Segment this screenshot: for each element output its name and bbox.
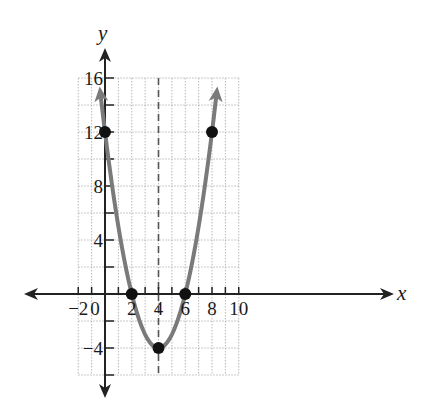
data-point (206, 126, 218, 138)
x-tick-label: 4 (154, 298, 164, 319)
x-tick-label: 8 (207, 298, 217, 319)
y-tick-label: 4 (94, 230, 104, 251)
y-tick-label: 16 (84, 68, 103, 89)
y-tick-label: −4 (83, 338, 104, 359)
y-tick-label: 8 (94, 176, 104, 197)
y-axis-label: y (96, 21, 108, 45)
x-tick-label: 2 (127, 298, 137, 319)
x-axis-label: x (396, 281, 407, 305)
x-tick-labels: −2 0 2 4 6 8 10 (68, 298, 248, 319)
x-tick-label: 6 (181, 298, 191, 319)
parabola-chart: −2 0 2 4 6 8 10 −4 4 8 12 16 x y (0, 0, 433, 403)
y-tick-label: 12 (84, 122, 103, 143)
x-tick-label: −2 (68, 298, 88, 319)
x-tick-label: 0 (90, 298, 100, 319)
x-tick-label: 10 (229, 298, 248, 319)
data-point (153, 342, 165, 354)
